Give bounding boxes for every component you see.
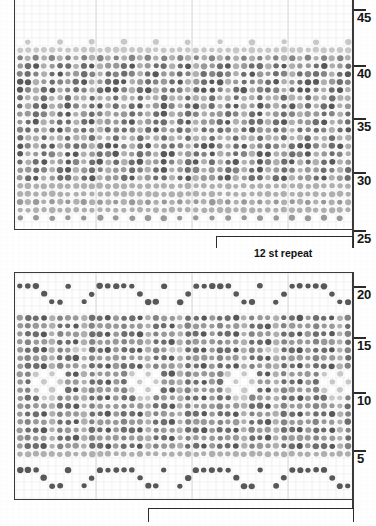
upper-chart-panel bbox=[14, 0, 354, 230]
lower-chart-panel bbox=[14, 272, 354, 500]
row-axis-rule bbox=[352, 0, 354, 248]
row-number-35: 35 bbox=[357, 120, 371, 133]
row-number-10: 10 bbox=[357, 394, 371, 407]
upper-chart-dots bbox=[14, 0, 354, 230]
row-number-5: 5 bbox=[357, 452, 364, 465]
row-number-45: 45 bbox=[357, 11, 371, 24]
row-number-25: 25 bbox=[357, 232, 371, 245]
knitting-chart-page: 45403530252015105 12 st repeat bbox=[0, 0, 376, 526]
lower-repeat-bracket bbox=[148, 508, 354, 522]
row-number-40: 40 bbox=[357, 67, 371, 80]
row-axis-rule-lower bbox=[352, 272, 354, 508]
row-number-15: 15 bbox=[357, 339, 371, 352]
row-number-20: 20 bbox=[357, 288, 371, 301]
upper-repeat-label: 12 st repeat bbox=[254, 247, 312, 259]
row-number-30: 30 bbox=[357, 174, 371, 187]
lower-chart-dots bbox=[14, 272, 354, 500]
